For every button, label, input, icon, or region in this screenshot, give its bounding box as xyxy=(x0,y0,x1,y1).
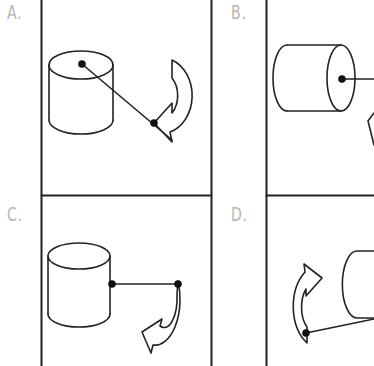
option-label-b: B. xyxy=(231,0,247,24)
panel-c xyxy=(48,243,182,353)
option-label-d: D. xyxy=(231,202,248,226)
rod xyxy=(306,319,374,333)
pivot-dot xyxy=(108,280,116,288)
panel-b xyxy=(273,45,374,145)
option-label-a: A. xyxy=(7,0,22,24)
pivot-dot xyxy=(338,75,346,83)
cylinder-icon xyxy=(48,243,110,327)
panel-d xyxy=(293,251,374,343)
rotation-arrow-icon xyxy=(368,113,374,145)
panel-a xyxy=(49,51,192,142)
diagram-canvas xyxy=(0,0,374,366)
pivot-dot xyxy=(78,60,86,68)
pivot-dot xyxy=(174,280,182,288)
cylinder-icon xyxy=(342,251,374,318)
option-label-c: C. xyxy=(7,202,23,226)
pivot-dot xyxy=(150,119,158,127)
rotation-arrow-icon xyxy=(154,60,192,142)
panel-borders xyxy=(42,0,374,366)
rotation-arrow-icon xyxy=(142,281,180,353)
pivot-dot xyxy=(302,329,310,337)
